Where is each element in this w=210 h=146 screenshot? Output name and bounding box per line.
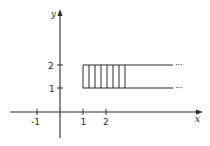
region: ··· ··· xyxy=(83,60,182,93)
region-diagram: x y -1 1 2 1 2 xyxy=(0,0,210,146)
lower-continuation-dots: ··· xyxy=(175,83,182,93)
x-tick-label-2: 2 xyxy=(103,117,109,127)
region-hatching xyxy=(83,65,125,88)
y-tick-label-1: 1 xyxy=(49,84,55,94)
y-axis-arrow-icon xyxy=(58,9,63,16)
upper-continuation-dots: ··· xyxy=(175,60,182,70)
x-tick-label-1: 1 xyxy=(81,117,87,127)
y-tick-label-2: 2 xyxy=(48,61,54,71)
y-axis: y xyxy=(50,9,63,138)
x-tick-label-neg1: -1 xyxy=(31,117,40,127)
y-ticks: 1 2 xyxy=(48,61,63,94)
x-axis-label: x xyxy=(195,114,200,124)
y-axis-label: y xyxy=(50,9,57,19)
